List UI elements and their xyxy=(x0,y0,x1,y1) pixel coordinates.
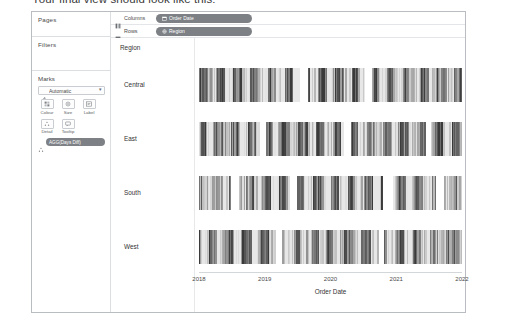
marks-detail-button[interactable]: Detail xyxy=(38,119,56,136)
viz-pane[interactable]: Region CentralEastSouthWest2018201920202… xyxy=(111,38,465,312)
columns-pill-label: Order Date xyxy=(169,15,194,21)
mark-band-south[interactable] xyxy=(199,176,462,210)
row-label-west: West xyxy=(124,243,138,250)
automatic-mark-icon xyxy=(41,88,47,94)
calendar-icon xyxy=(162,16,167,21)
label-icon xyxy=(83,99,96,109)
marks-tooltip-button[interactable]: Tooltip xyxy=(59,119,77,136)
x-axis-tick-2022: 2022 xyxy=(455,276,468,282)
mark-band-central[interactable] xyxy=(199,68,462,102)
detail-pin-icon xyxy=(38,139,44,145)
marks-label-button[interactable]: Label xyxy=(80,99,98,116)
x-axis-tick-2020: 2020 xyxy=(324,276,337,282)
left-shelf-column: Pages Filters Marks Automatic ▾ xyxy=(32,12,110,312)
columns-shelf-icon xyxy=(115,15,121,21)
marks-button-row-1: Colour Size xyxy=(38,99,105,116)
x-axis-tick-2021: 2021 xyxy=(390,276,403,282)
tooltip-icon xyxy=(62,119,75,129)
marks-colour-button[interactable]: Colour xyxy=(38,99,56,116)
row-label-central: Central xyxy=(124,81,145,88)
pages-shelf-label: Pages xyxy=(38,16,110,24)
chevron-down-icon: ▾ xyxy=(99,88,102,93)
row-label-south: South xyxy=(124,189,141,196)
marks-card: Marks Automatic ▾ xyxy=(32,71,110,152)
columns-shelf-label: Columns xyxy=(124,15,156,21)
mark-type-dropdown[interactable]: Automatic ▾ xyxy=(38,86,105,95)
marks-measure-pill[interactable]: AGG(Days Diff) xyxy=(46,138,105,146)
marks-card-pill-row: AGG(Days Diff) xyxy=(38,138,105,146)
x-axis-title: Order Date xyxy=(315,288,347,295)
rows-shelf-icon xyxy=(115,28,121,34)
marks-card-label: Marks xyxy=(38,75,105,83)
size-icon xyxy=(62,99,75,109)
pages-shelf[interactable]: Pages xyxy=(32,12,110,37)
globe-icon xyxy=(162,29,167,34)
marks-colour-label: Colour xyxy=(41,110,54,116)
mark-type-value: Automatic xyxy=(49,88,99,94)
detail-icon xyxy=(41,119,54,129)
marks-detail-label: Detail xyxy=(41,129,52,135)
row-header-title: Region xyxy=(120,44,140,51)
columns-shelf[interactable]: Columns Order Date xyxy=(111,12,465,25)
marks-label-label: Label xyxy=(84,110,95,116)
main-column: Columns Order Date xyxy=(110,12,465,312)
row-header-divider xyxy=(194,38,195,312)
rows-pill-label: Region xyxy=(169,28,185,34)
x-axis-line xyxy=(199,272,462,273)
colour-icon xyxy=(41,99,54,109)
x-axis-tick-2019: 2019 xyxy=(258,276,271,282)
row-label-east: East xyxy=(124,135,137,142)
rows-pill-region[interactable]: Region xyxy=(156,27,252,36)
mark-band-west[interactable] xyxy=(199,230,462,264)
mark-band-east[interactable] xyxy=(199,122,462,156)
filters-shelf-label: Filters xyxy=(38,41,110,49)
screenshot-root: Your final view should look like this: P… xyxy=(0,0,505,333)
tableau-worksheet-frame: Pages Filters Marks Automatic ▾ xyxy=(31,11,466,313)
filters-shelf[interactable]: Filters xyxy=(32,37,110,71)
columns-pill-order-date[interactable]: Order Date xyxy=(156,14,252,23)
x-axis-tick-2018: 2018 xyxy=(192,276,205,282)
marks-size-button[interactable]: Size xyxy=(59,99,77,116)
rows-shelf[interactable]: Rows Region xyxy=(111,25,465,38)
rows-shelf-label: Rows xyxy=(124,28,156,34)
marks-button-row-2: Detail Tooltip xyxy=(38,119,105,136)
marks-size-label: Size xyxy=(64,110,73,116)
marks-tooltip-label: Tooltip xyxy=(62,129,75,135)
instruction-caption: Your final view should look like this: xyxy=(32,0,332,7)
